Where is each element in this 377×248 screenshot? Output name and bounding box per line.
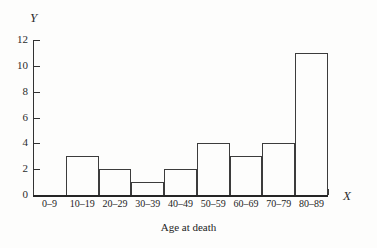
x-axis-tick — [131, 189, 132, 195]
y-axis-tick — [34, 118, 40, 119]
histogram-bar — [164, 169, 197, 195]
x-axis-line — [33, 195, 328, 197]
x-axis-label: X — [343, 188, 351, 204]
histogram-bar — [99, 169, 132, 195]
y-axis-tick-label: 8 — [8, 86, 28, 97]
x-axis-tick — [230, 189, 231, 195]
x-axis-tick — [33, 189, 34, 195]
y-axis-tick — [34, 143, 40, 144]
y-axis-tick-label: 6 — [8, 112, 28, 123]
y-axis-tick — [34, 92, 40, 93]
x-axis-tick-label: 80–89 — [290, 199, 334, 209]
y-axis-tick-label: 10 — [8, 60, 28, 71]
y-axis-tick — [34, 66, 40, 67]
x-axis-tick — [99, 189, 100, 195]
histogram-bar — [197, 143, 230, 195]
histogram-bar — [295, 53, 328, 195]
histogram-bar — [262, 143, 295, 195]
x-axis-tick — [328, 189, 329, 195]
figure-caption: Age at death — [0, 221, 377, 233]
x-axis-tick — [164, 189, 165, 195]
y-axis-tick-label: 4 — [8, 137, 28, 148]
histogram-bar — [66, 156, 99, 195]
x-axis-tick — [197, 189, 198, 195]
y-axis-tick-label: 12 — [8, 34, 28, 45]
x-axis-tick — [295, 189, 296, 195]
histogram-bar — [230, 156, 263, 195]
y-axis-tick-label: 0 — [8, 189, 28, 200]
y-axis-tick-label: 2 — [8, 163, 28, 174]
y-axis-label: Y — [30, 10, 38, 26]
histogram-bar — [131, 182, 164, 195]
x-axis-tick — [66, 189, 67, 195]
histogram-figure: Y 024681012 0–910–1920–2930–3940–4950–59… — [0, 0, 377, 248]
x-axis-tick — [262, 189, 263, 195]
y-axis-tick — [34, 40, 40, 41]
y-axis-tick — [34, 169, 40, 170]
